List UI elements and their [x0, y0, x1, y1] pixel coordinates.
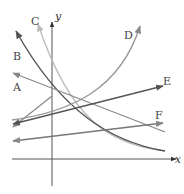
- label-f: F: [155, 109, 163, 122]
- label-d: D: [124, 29, 133, 42]
- curve-d: [12, 26, 140, 120]
- curve-c: [38, 24, 165, 151]
- curve-f: [13, 123, 163, 141]
- axes: x y: [12, 10, 182, 186]
- label-a: A: [12, 81, 22, 94]
- label-b: B: [13, 50, 21, 63]
- curve-a: [13, 73, 165, 132]
- x-axis-label: x: [175, 153, 182, 166]
- y-axis-label: y: [54, 10, 62, 23]
- function-graphs-figure: x y A B C D E F: [0, 0, 184, 194]
- label-c: C: [31, 15, 39, 28]
- label-e: E: [163, 75, 171, 88]
